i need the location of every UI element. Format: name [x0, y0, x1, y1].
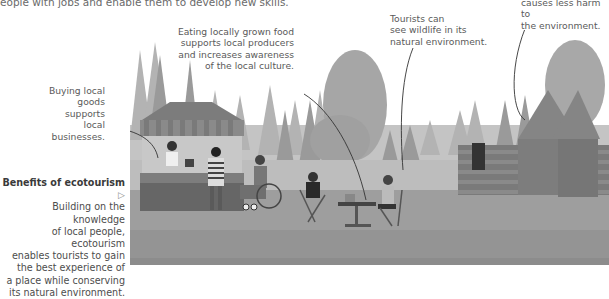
- benefits-line: of local people, ecotourism: [0, 226, 125, 250]
- annotation-environment: causes less harm to the environment.: [521, 0, 609, 31]
- annotation-line: Buying local: [48, 85, 105, 96]
- annotation-line: causes less harm to: [521, 0, 609, 20]
- benefits-line: the best experience of: [0, 262, 125, 274]
- illustration-svg: [130, 30, 609, 265]
- annotation-buying-local: Buying local goods supports local busine…: [48, 85, 105, 142]
- triangle-right-outline-icon: ▷: [118, 190, 125, 200]
- ecotourism-illustration: [130, 30, 609, 265]
- annotation-line: Tourists can: [390, 13, 500, 24]
- benefits-title-row: Benefits of ecotourism ▷: [0, 177, 125, 201]
- market-stall-icon: [140, 102, 244, 211]
- benefits-line: a place while conserving: [0, 275, 125, 287]
- benefits-title: Benefits of ecotourism: [2, 177, 125, 188]
- benefits-sidebar: Benefits of ecotourism ▷ Building on the…: [0, 177, 125, 299]
- annotation-line: local businesses.: [48, 119, 105, 142]
- annotation-line: goods supports: [48, 96, 105, 119]
- benefits-line: its natural environment.: [0, 287, 125, 299]
- benefits-line: Building on the knowledge: [0, 201, 125, 225]
- intro-text-fragment: eople with jobs and enable them to devel…: [0, 0, 289, 8]
- benefits-line: enables tourists to gain: [0, 250, 125, 262]
